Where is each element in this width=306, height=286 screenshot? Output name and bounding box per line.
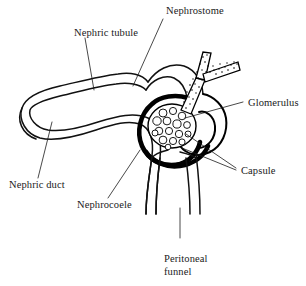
label-nephrostome: Nephrostome [166,5,224,16]
nephron-diagram-canvas: Nephrostome Nephric tubule Glomerulus Ca… [0,0,306,286]
label-glomerulus: Glomerulus [248,97,299,108]
label-nephric-tubule: Nephric tubule [74,27,138,38]
nephron-diagram-figure: Nephrostome Nephric tubule Glomerulus Ca… [0,0,306,286]
leader-nephrocoele [108,150,140,198]
label-peritoneal-funnel-line2: funnel [164,266,191,277]
tubule-outer-wall [21,73,153,214]
label-nephric-duct: Nephric duct [9,179,65,190]
funnel-left-inner [156,158,160,214]
leader-nephric-duct [38,122,52,178]
leader-nephric-tubule [85,38,94,90]
label-peritoneal-funnel-line1: Peritoneal [164,253,208,264]
label-nephrocoele: Nephrocoele [77,199,132,210]
funnel-right-outer [196,154,200,214]
funnel-left-outer [146,156,152,214]
label-capsule: Capsule [241,165,276,176]
arterioles-shape [181,52,240,114]
